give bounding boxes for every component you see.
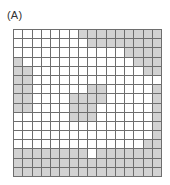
grid-cell-empty (51, 104, 59, 112)
grid-cell-empty (134, 122, 142, 130)
grid-cell-empty (97, 48, 105, 56)
grid-cell-empty (51, 94, 59, 102)
grid-cell-empty (107, 67, 115, 75)
grid-cell-filled (14, 85, 22, 93)
grid-cell-empty (125, 113, 133, 121)
grid-cell-filled (88, 159, 96, 167)
grid-cell-empty (42, 76, 50, 84)
grid-cell-empty (42, 140, 50, 148)
grid-cell-filled (125, 168, 133, 176)
grid-cell-filled (144, 67, 152, 75)
grid-cell-empty (51, 39, 59, 47)
grid-cell-filled (14, 104, 22, 112)
grid-cell-filled (97, 149, 105, 157)
grid-cell-empty (33, 48, 41, 56)
grid-cell-filled (60, 159, 68, 167)
grid-cell-filled (23, 168, 31, 176)
grid-cell-filled (14, 67, 22, 75)
grid-cell-filled (42, 159, 50, 167)
grid-cell-empty (33, 30, 41, 38)
grid-cell-empty (60, 48, 68, 56)
grid-cell-empty (125, 140, 133, 148)
grid-cell-empty (70, 67, 78, 75)
grid-cell-empty (33, 131, 41, 139)
grid-cell-filled (97, 159, 105, 167)
grid-cell-filled (14, 76, 22, 84)
grid-cell-empty (79, 67, 87, 75)
grid-cell-empty (107, 131, 115, 139)
grid-cell-filled (88, 85, 96, 93)
grid-cell-empty (116, 131, 124, 139)
grid-cell-filled (60, 168, 68, 176)
grid-cell-empty (97, 122, 105, 130)
grid-cell-filled (88, 168, 96, 176)
grid-cell-empty (97, 67, 105, 75)
grid-cell-empty (79, 39, 87, 47)
grid-cell-empty (33, 104, 41, 112)
grid-cell-filled (79, 94, 87, 102)
grid-cell-empty (51, 48, 59, 56)
grid-cell-empty (125, 122, 133, 130)
grid-cell-filled (134, 58, 142, 66)
grid-cell-filled (107, 159, 115, 167)
grid-cell-filled (79, 168, 87, 176)
grid-cell-empty (60, 131, 68, 139)
grid-cell-empty (79, 76, 87, 84)
grid-cell-empty (107, 76, 115, 84)
grid-cell-empty (51, 131, 59, 139)
grid-cell-filled (125, 30, 133, 38)
grid-cell-empty (107, 58, 115, 66)
grid-cell-filled (144, 58, 152, 66)
grid-cell-filled (60, 149, 68, 157)
grid-cell-empty (60, 85, 68, 93)
grid-cell-empty (51, 67, 59, 75)
grid-cell-empty (51, 85, 59, 93)
grid-cell-empty (42, 94, 50, 102)
grid-cell-empty (107, 94, 115, 102)
grid-cell-filled (51, 149, 59, 157)
grid-cell-empty (70, 131, 78, 139)
grid-cell-filled (51, 159, 59, 167)
grid-cell-empty (116, 122, 124, 130)
grid-cell-filled (70, 149, 78, 157)
grid-cell-filled (33, 159, 41, 167)
grid-cell-empty (107, 113, 115, 121)
grid-cell-empty (125, 104, 133, 112)
grid-cell-empty (23, 58, 31, 66)
grid-cell-filled (88, 113, 96, 121)
grid-cell-filled (79, 104, 87, 112)
grid-cell-empty (60, 122, 68, 130)
grid-cell-empty (60, 104, 68, 112)
grid-cell-empty (42, 39, 50, 47)
grid-cell-empty (14, 48, 22, 56)
grid-cell-empty (144, 76, 152, 84)
grid-cell-empty (88, 48, 96, 56)
grid-cell-empty (60, 76, 68, 84)
grid-cell-empty (51, 76, 59, 84)
grid-cell-empty (97, 76, 105, 84)
grid-cell-empty (134, 94, 142, 102)
grid-cell-empty (107, 140, 115, 148)
grid-cell-empty (125, 58, 133, 66)
grid-cell-empty (33, 94, 41, 102)
grid-cell-empty (116, 140, 124, 148)
grid-cell-empty (51, 140, 59, 148)
grid-cell-filled (144, 168, 152, 176)
grid-cell-empty (42, 85, 50, 93)
grid-cell-filled (14, 58, 22, 66)
grid-cell-empty (79, 58, 87, 66)
grid-cell-empty (144, 104, 152, 112)
grid-cell-empty (23, 140, 31, 148)
grid-cell-empty (60, 140, 68, 148)
grid-cell-filled (14, 159, 22, 167)
grid-cell-empty (88, 76, 96, 84)
grid-cell-empty (88, 149, 96, 157)
grid-cell-empty (125, 76, 133, 84)
grid-cell-empty (23, 122, 31, 130)
grid-cell-filled (23, 67, 31, 75)
grid-cell-filled (153, 67, 161, 75)
grid-cell-filled (153, 30, 161, 38)
grid-cell-empty (79, 122, 87, 130)
grid-cell-empty (79, 48, 87, 56)
grid-cell-empty (14, 113, 22, 121)
